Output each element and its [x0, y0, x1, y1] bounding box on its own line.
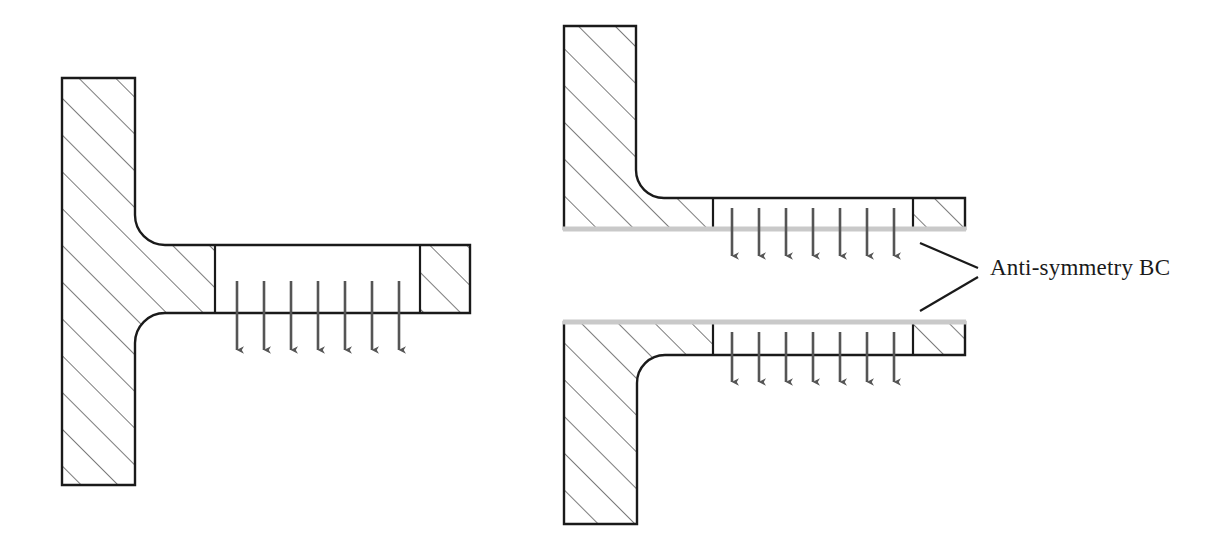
- anti-symmetry-bc-label: Anti-symmetry BC: [990, 255, 1170, 281]
- upper-half-tip-hatch-fill: [913, 198, 965, 229]
- full-model-hatch-fill: [62, 78, 215, 485]
- leader-line: [920, 277, 978, 311]
- lower-half-tip-hatch-fill: [913, 322, 965, 355]
- diagram-canvas: Anti-symmetry BC: [0, 0, 1228, 553]
- lower-half-hatch-fill: [564, 322, 713, 524]
- full-model-tip-hatch-fill: [420, 245, 470, 313]
- anti-symmetry-bc-leaders: [920, 243, 978, 311]
- upper-half-model: [563, 26, 966, 256]
- full-t-section-model: [62, 78, 470, 485]
- lower-half-model: [563, 322, 966, 524]
- leader-line: [920, 243, 978, 268]
